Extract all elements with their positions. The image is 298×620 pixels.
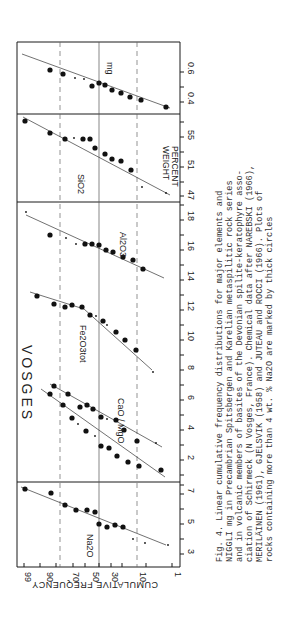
- label-na2o: Na2O: [85, 534, 95, 558]
- caption-line-6: rocks containing more than 4 wt. % Na2O …: [265, 216, 275, 562]
- x-axis-label-weight: WEIGHT: [161, 146, 171, 180]
- series-al2o3: Al2O3: [25, 211, 164, 278]
- caption-line-5: MERILÄINEN (1961), GJELSVIK (1958) and J…: [255, 191, 265, 562]
- xtick-10: 10: [186, 331, 196, 341]
- series-mg: mg: [22, 54, 170, 110]
- series-fe2o3: Fe2O3tot: [30, 292, 154, 373]
- label-al2o3: Al2O3: [118, 232, 128, 257]
- figure-title: VOSGES: [19, 345, 35, 422]
- caption-line-2: NIGGLI mg in Precambrian Spitsbergen and…: [225, 180, 235, 562]
- xtick-mg-0.4: 0.4: [186, 92, 196, 105]
- caption-line-3: and in volcanic members of basites of th…: [235, 170, 245, 562]
- ytick-1: 1: [173, 572, 183, 577]
- label-mg: mg: [105, 62, 115, 75]
- figure-caption: Fig. 4. Linear cumulative frequency dist…: [215, 165, 275, 562]
- y-axis-ticks: [24, 563, 172, 567]
- x-axis-tick-labels: 3 5 7 2 4 6 8 10 12 14 16 18 47 51 55 0.…: [186, 62, 196, 554]
- xtick-na2o-7: 7: [186, 488, 196, 493]
- x-axis-label-percent: PERCENT: [170, 146, 180, 187]
- ytick-99: 99: [23, 572, 33, 582]
- xtick-2: 2: [186, 455, 196, 460]
- caption-line-4: ciation of Schirmeck (N Vosges, France).…: [245, 165, 255, 562]
- caption-line-1: Fig. 4. Linear cumulative frequency dist…: [215, 191, 225, 562]
- xtick-na2o-3: 3: [186, 549, 196, 554]
- series-mgo: CaO / MgO: [50, 383, 162, 447]
- xtick-16: 16: [186, 241, 196, 251]
- xtick-mg-0.6: 0.6: [186, 62, 196, 75]
- xtick-6: 6: [186, 395, 196, 400]
- label-fe2o3tot: Fe2O3tot: [78, 325, 88, 363]
- xtick-12: 12: [186, 301, 196, 311]
- xtick-8: 8: [186, 365, 196, 370]
- label-sio2: SiO2: [76, 174, 86, 194]
- xtick-18: 18: [186, 211, 196, 221]
- xtick-sio2-55: 55: [186, 130, 196, 140]
- xtick-4: 4: [186, 425, 196, 430]
- y-axis-label: CUMULATIVE FREQUENCY: [32, 580, 158, 590]
- series-cao: [41, 389, 165, 477]
- xtick-14: 14: [186, 271, 196, 281]
- plot-frame: [17, 42, 180, 567]
- xtick-sio2-51: 51: [186, 160, 196, 170]
- figure-4: 99 90 70 50 30 10 1 CUMULATIVE FREQUENCY: [0, 0, 298, 620]
- xtick-sio2-47: 47: [186, 190, 196, 200]
- xtick-na2o-5: 5: [186, 519, 196, 524]
- series-sio2: SiO2: [22, 117, 170, 195]
- label-cao-mgo: CaO / MgO: [116, 398, 126, 444]
- series-na2o: Na2O: [21, 486, 169, 557]
- x-axis-ticks: [180, 72, 184, 554]
